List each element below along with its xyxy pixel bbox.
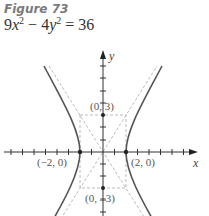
point-0-3 [101, 113, 105, 117]
label-neg2-0: (−2, 0) [37, 156, 67, 169]
svg-text:x: x [192, 156, 199, 170]
label-0-neg3: (0, −3) [85, 192, 115, 205]
label-0-3: (0, 3) [90, 100, 114, 113]
hyperbola-graph: x y (0, 3) (0, −3) (−2, 0) (2, 0) [0, 0, 209, 216]
hyperbola-right-branch [126, 66, 162, 216]
label-2-0: (2, 0) [131, 156, 155, 169]
y-axis: y [100, 49, 115, 216]
svg-text:y: y [108, 49, 115, 63]
x-axis: x [4, 149, 199, 170]
vertex-left [78, 150, 82, 154]
point-0-neg3 [101, 186, 105, 190]
vertex-right [124, 150, 128, 154]
hyperbola-left-branch [44, 66, 80, 216]
